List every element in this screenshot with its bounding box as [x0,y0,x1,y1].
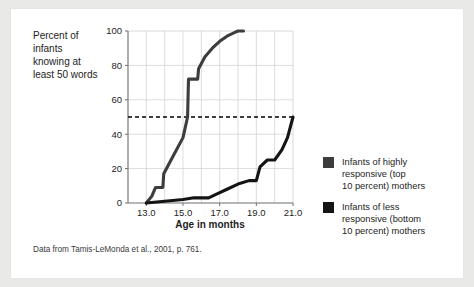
x-axis-tick-label: 19.0 [247,207,266,218]
y-axis-label-line: infants [33,43,62,54]
y-axis-tick-label: 100 [106,25,122,36]
legend-label-line: 10 percent) mothers [342,181,426,191]
y-axis-tick-label: 80 [111,60,122,71]
y-axis-label-line: knowing at [33,56,81,67]
legend-swatch [323,157,334,168]
y-axis-tick-label: 20 [111,163,122,174]
y-axis-tick-label: 40 [111,129,122,140]
y-axis-tick-label: 0 [117,197,122,208]
legend-label-line: responsive (top [342,169,406,179]
x-axis-tick-labels: 13.015.017.019.021.0 [137,203,302,218]
legend-label-line: responsive (bottom [342,214,421,224]
x-axis-tick-label: 17.0 [210,207,229,218]
y-axis-label: Percent ofinfantsknowing atleast 50 word… [33,30,97,80]
x-axis-tick-label: 13.0 [137,207,156,218]
legend-label-line: 10 percent) mothers [342,226,426,236]
y-axis-tick-label: 60 [111,94,122,105]
y-axis-label-line: least 50 words [33,69,97,80]
x-axis-tick-label: 15.0 [174,207,193,218]
figure-caption: Data from Tamis-LeMonda et al., 2001, p.… [33,245,202,254]
chart-svg: 020406080100 13.015.017.019.021.0 Percen… [11,9,463,278]
y-axis-label-line: Percent of [33,30,79,41]
legend-swatch [323,202,334,213]
x-axis-tick-label: 21.0 [284,207,303,218]
legend-label-line: Infants of less [342,202,400,212]
chart-legend: Infants of highlyresponsive (top10 perce… [323,157,426,236]
figure-card: 020406080100 13.015.017.019.021.0 Percen… [11,9,463,278]
y-axis-tick-labels: 020406080100 [106,25,128,208]
chart-container: 020406080100 13.015.017.019.021.0 Percen… [11,9,463,278]
legend-label-line: Infants of highly [342,157,407,167]
x-axis-title: Age in months [175,219,245,230]
